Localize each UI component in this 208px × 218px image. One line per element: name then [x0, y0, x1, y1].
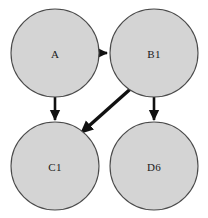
- graph-svg: A B1 C1 D6: [0, 0, 208, 218]
- graph-canvas: A B1 C1 D6: [0, 0, 208, 218]
- node-c1[interactable]: C1: [11, 122, 99, 210]
- node-b1[interactable]: B1: [110, 9, 198, 97]
- node-layer: A B1 C1 D6: [11, 9, 198, 210]
- node-a-label: A: [51, 48, 59, 60]
- node-c1-label: C1: [48, 161, 61, 173]
- node-d6-label: D6: [147, 161, 161, 173]
- edge-b1-to-c1: [81, 84, 136, 133]
- node-d6[interactable]: D6: [110, 122, 198, 210]
- node-b1-label: B1: [147, 48, 160, 60]
- node-a[interactable]: A: [11, 9, 99, 97]
